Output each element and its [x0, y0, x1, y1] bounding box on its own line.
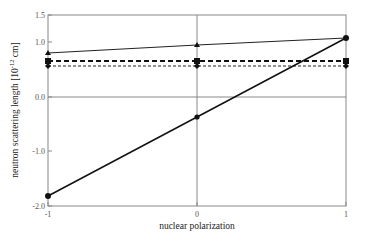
x-axis: -1 0 1 [45, 202, 348, 219]
x-tick-label: -1 [45, 210, 52, 219]
chart: 1.5 1.0 0.0 -1.0 -2.0 -1 0 1 nuclear pol… [0, 0, 366, 239]
y-tick-label: -1.0 [32, 147, 45, 156]
y-tick-label: 1.0 [35, 38, 45, 47]
y-tick-label: 0.0 [35, 93, 45, 102]
y-tick-label: -2.0 [32, 202, 45, 211]
square-marker [45, 58, 51, 64]
square-marker [343, 58, 349, 64]
x-axis-label: nuclear polarization [159, 221, 235, 231]
square-marker [194, 58, 200, 64]
x-tick-label: 0 [195, 210, 199, 219]
y-tick-label: 1.5 [35, 11, 45, 20]
series-triangle-solid [45, 38, 346, 55]
x-tick-label: 1 [344, 210, 348, 219]
y-axis-label: neutron scattering length [10-12 cm] [8, 42, 20, 177]
y-axis: 1.5 1.0 0.0 -1.0 -2.0 [32, 11, 52, 211]
circle-marker [343, 35, 349, 41]
circle-marker [194, 114, 199, 119]
circle-marker [45, 193, 51, 199]
